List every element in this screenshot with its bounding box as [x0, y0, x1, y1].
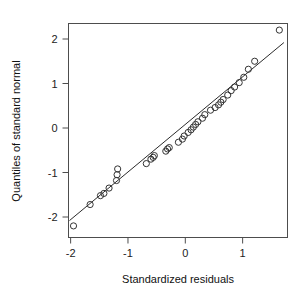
- y-tick-label: 2: [51, 33, 57, 45]
- x-tick-label: -1: [123, 247, 133, 259]
- y-tick-label: -1: [48, 167, 58, 179]
- x-tick-label: 1: [240, 247, 246, 259]
- x-tick-label: 0: [182, 247, 188, 259]
- x-axis-title: Standardized residuals: [122, 273, 234, 285]
- y-tick-label: 0: [51, 122, 57, 134]
- qq-plot-figure: -2-101 -2-1012 Standardized residuals Qu…: [0, 0, 308, 300]
- x-tick-label: -2: [66, 247, 76, 259]
- y-axis-title: Quantiles of standard normal: [10, 60, 22, 201]
- qq-plot-canvas: -2-101 -2-1012 Standardized residuals Qu…: [0, 0, 308, 300]
- y-tick-label: -2: [48, 211, 58, 223]
- y-tick-label: 1: [51, 78, 57, 90]
